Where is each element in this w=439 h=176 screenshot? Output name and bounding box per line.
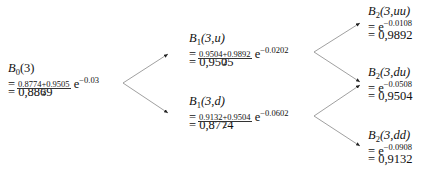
node-label: B0(3) bbox=[8, 62, 99, 74]
edge-u-to-uu bbox=[314, 23, 360, 52]
node-dd: B2(3,dd) = e−0.0908 = 0,9132 bbox=[368, 129, 413, 165]
node-label: B2(3,du) bbox=[368, 66, 413, 78]
edge-root-to-d bbox=[123, 83, 168, 113]
node-label: B1(3,d) bbox=[189, 95, 288, 107]
node-label: B2(3,uu) bbox=[368, 5, 413, 17]
node-formula: =0.9504+0.98922 e−0.0202 bbox=[189, 44, 288, 56]
node-root: B0(3) =0.8774+0.95052 e−0.03 = 0,8869 bbox=[8, 62, 99, 98]
node-formula: =0.9132+0.95042 e−0.0602 bbox=[189, 107, 288, 119]
node-du: B2(3,du) = e−0.0508 = 0,9504 bbox=[368, 66, 413, 102]
edge-root-to-u bbox=[123, 54, 168, 83]
node-d: B1(3,d) =0.9132+0.95042 e−0.0602 = 0,877… bbox=[189, 95, 288, 131]
node-result: = 0,9132 bbox=[368, 153, 413, 165]
node-label: B1(3,u) bbox=[189, 32, 288, 44]
edge-d-to-dd bbox=[314, 116, 360, 146]
node-label: B2(3,dd) bbox=[368, 129, 413, 141]
edge-u-to-du bbox=[314, 52, 360, 82]
node-result: = 0,9892 bbox=[368, 29, 413, 41]
edge-d-to-du bbox=[314, 85, 360, 116]
node-formula: =0.8774+0.95052 e−0.03 bbox=[8, 74, 99, 86]
node-u: B1(3,u) =0.9504+0.98922 e−0.0202 = 0,950… bbox=[189, 32, 288, 68]
node-uu: B2(3,uu) = e−0.0108 = 0,9892 bbox=[368, 5, 413, 41]
node-result: = 0,9504 bbox=[368, 90, 413, 102]
